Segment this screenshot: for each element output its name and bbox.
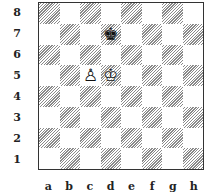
square-f7 [142,24,163,45]
square-e5 [121,65,142,86]
rank-label: 4 [10,90,24,103]
square-a1 [39,148,60,169]
white-pawn-icon: ♙ [83,67,98,84]
square-c8 [80,3,101,24]
square-f5 [142,65,163,86]
square-g5 [162,65,183,86]
square-f2 [142,128,163,149]
square-f8 [142,3,163,24]
square-b4 [60,86,81,107]
square-c3 [80,107,101,128]
square-h6 [183,45,204,66]
square-f6 [142,45,163,66]
square-b3 [60,107,81,128]
file-label: g [163,180,183,193]
square-e4 [121,86,142,107]
square-b6 [60,45,81,66]
file-label: c [80,180,100,193]
chess-board: ♚♙♔ [38,2,204,170]
square-e7 [121,24,142,45]
square-c7 [80,24,101,45]
square-e6 [121,45,142,66]
square-a8 [39,3,60,24]
square-c5: ♙ [80,65,101,86]
square-a4 [39,86,60,107]
square-a7 [39,24,60,45]
file-label: a [38,180,58,193]
square-b5 [60,65,81,86]
square-h4 [183,86,204,107]
square-g8 [162,3,183,24]
file-label: h [184,180,204,193]
square-h8 [183,3,204,24]
rank-label: 1 [10,153,24,166]
square-d5: ♔ [101,65,122,86]
square-d7: ♚ [101,24,122,45]
square-b8 [60,3,81,24]
square-e3 [121,107,142,128]
square-f1 [142,148,163,169]
white-king-icon: ♔ [103,67,118,84]
rank-label: 5 [10,69,24,82]
square-h7 [183,24,204,45]
square-d1 [101,148,122,169]
square-e2 [121,128,142,149]
file-label: f [142,180,162,193]
square-c1 [80,148,101,169]
square-g2 [162,128,183,149]
square-h2 [183,128,204,149]
square-c4 [80,86,101,107]
square-h1 [183,148,204,169]
square-a3 [39,107,60,128]
square-d2 [101,128,122,149]
square-b7 [60,24,81,45]
square-d8 [101,3,122,24]
rank-label: 3 [10,111,24,124]
square-a6 [39,45,60,66]
file-label: e [121,180,141,193]
square-c6 [80,45,101,66]
square-d4 [101,86,122,107]
square-f4 [142,86,163,107]
black-king-icon: ♚ [103,26,118,43]
square-a2 [39,128,60,149]
square-e8 [121,3,142,24]
square-d6 [101,45,122,66]
square-c2 [80,128,101,149]
file-label: d [101,180,121,193]
rank-label: 2 [10,132,24,145]
square-g6 [162,45,183,66]
square-h3 [183,107,204,128]
square-g1 [162,148,183,169]
rank-label: 6 [10,48,24,61]
square-g7 [162,24,183,45]
square-b1 [60,148,81,169]
file-label: b [59,180,79,193]
square-a5 [39,65,60,86]
square-e1 [121,148,142,169]
square-g3 [162,107,183,128]
square-g4 [162,86,183,107]
square-d3 [101,107,122,128]
square-b2 [60,128,81,149]
square-f3 [142,107,163,128]
rank-label: 8 [10,6,24,19]
square-h5 [183,65,204,86]
rank-label: 7 [10,27,24,40]
